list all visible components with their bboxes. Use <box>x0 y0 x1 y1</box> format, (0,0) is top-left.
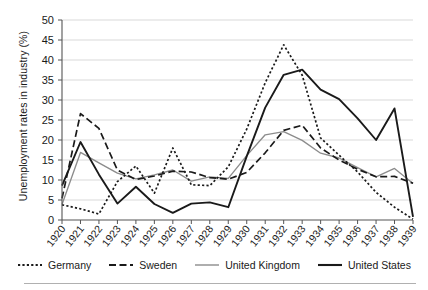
y-tick-label: 35 <box>42 74 54 86</box>
legend-label: Germany <box>48 259 91 271</box>
y-tick-label: 5 <box>48 194 54 206</box>
legend-swatch-dashed <box>108 260 134 270</box>
legend-item-sweden[interactable]: Sweden <box>108 259 177 271</box>
series-line-united-kingdom <box>62 132 413 205</box>
legend-swatch-dotted <box>17 260 43 270</box>
x-tick-marks <box>62 220 413 224</box>
x-tick-label: 1924 <box>118 223 142 249</box>
x-tick-label: 1931 <box>247 223 271 249</box>
x-tick-label: 1932 <box>265 223 289 249</box>
x-tick-label: 1928 <box>192 223 216 249</box>
x-tick-label: 1939 <box>395 223 419 249</box>
series-line-germany <box>62 45 413 219</box>
data-series-layer <box>62 45 413 219</box>
x-tick-label: 1935 <box>321 223 345 249</box>
legend-label: United States <box>348 259 411 271</box>
chart-figure: Unemployment rates in industry (%) 05101… <box>0 0 428 290</box>
y-tick-label: 0 <box>48 214 54 226</box>
legend-label: United Kingdom <box>225 259 300 271</box>
x-tick-labels: 1920192119221923192419251926192719281929… <box>44 223 419 249</box>
legend-swatch-solid-thin <box>194 260 220 270</box>
x-tick-label: 1934 <box>302 223 326 249</box>
y-tick-label: 25 <box>42 114 54 126</box>
legend-item-germany[interactable]: Germany <box>17 259 91 271</box>
x-tick-label: 1927 <box>173 223 197 249</box>
legend-label: Sweden <box>139 259 177 271</box>
x-tick-label: 1922 <box>81 223 105 249</box>
legend-swatch-solid-thick <box>317 260 343 270</box>
legend-item-united-kingdom[interactable]: United Kingdom <box>194 259 300 271</box>
chart-legend: GermanySwedenUnited KingdomUnited States <box>0 252 428 278</box>
y-tick-label: 45 <box>42 34 54 46</box>
x-tick-label: 1938 <box>376 223 400 249</box>
line-chart-plot: 05101520253035404550 1920192119221923192… <box>0 0 428 252</box>
legend-divider <box>24 283 416 284</box>
y-tick-label: 10 <box>42 174 54 186</box>
legend-item-united-states[interactable]: United States <box>317 259 411 271</box>
x-tick-label: 1929 <box>210 223 234 249</box>
x-tick-label: 1926 <box>155 223 179 249</box>
x-tick-label: 1937 <box>358 223 382 249</box>
series-line-united-states <box>62 70 413 217</box>
x-tick-label: 1933 <box>284 223 308 249</box>
y-tick-labels: 05101520253035404550 <box>42 14 54 226</box>
x-tick-label: 1936 <box>339 223 363 249</box>
y-tick-label: 30 <box>42 94 54 106</box>
y-tick-label: 40 <box>42 54 54 66</box>
y-tick-label: 15 <box>42 154 54 166</box>
x-tick-label: 1920 <box>44 223 68 249</box>
y-tick-label: 50 <box>42 14 54 26</box>
x-tick-label: 1930 <box>228 223 252 249</box>
x-tick-label: 1925 <box>136 223 160 249</box>
x-tick-label: 1921 <box>62 223 86 249</box>
x-tick-label: 1923 <box>99 223 123 249</box>
y-tick-label: 20 <box>42 134 54 146</box>
